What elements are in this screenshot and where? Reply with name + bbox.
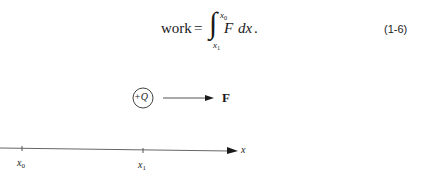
force-arrowhead-icon xyxy=(205,95,214,101)
x-axis-line xyxy=(0,148,230,151)
tick-label-x1-sub: 1 xyxy=(142,164,146,172)
x-axis-arrowhead-icon xyxy=(227,147,238,154)
tick-label-x0-sub: 0 xyxy=(21,162,25,170)
tick-label-x0: x0 xyxy=(17,157,25,170)
force-label: F xyxy=(222,90,230,106)
charge-label: +Q xyxy=(134,91,148,102)
diagram-canvas xyxy=(0,0,424,190)
x-axis-label: x xyxy=(241,144,245,155)
tick-label-x1: x1 xyxy=(138,159,146,172)
